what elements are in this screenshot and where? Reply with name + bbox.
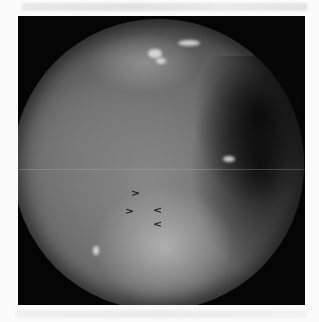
- specular-highlight: [148, 49, 162, 58]
- arrowhead-annotation: <: [153, 220, 162, 229]
- dark-cavity-region: [193, 56, 303, 206]
- specular-highlight: [223, 156, 235, 162]
- arrowhead-annotation: >: [125, 207, 134, 216]
- scan-artifact-line: [18, 169, 305, 170]
- bottom-caption-band: [16, 310, 306, 318]
- specular-highlight: [156, 58, 166, 64]
- arrowhead-annotation: <: [153, 206, 162, 215]
- image-frame: > > < <: [18, 16, 305, 305]
- top-caption-band: [22, 3, 307, 11]
- specular-highlight: [178, 40, 200, 46]
- specular-highlight: [93, 246, 99, 255]
- arrowhead-annotation: >: [131, 189, 140, 198]
